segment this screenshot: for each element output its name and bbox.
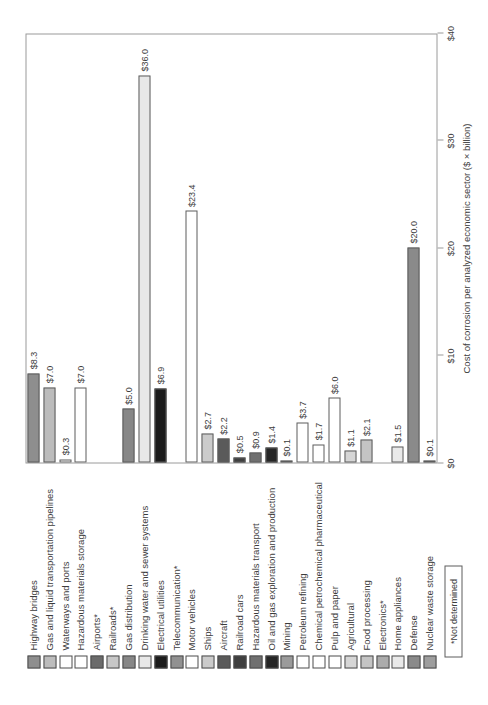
legend-swatch [391, 655, 404, 668]
legend-swatch [423, 655, 436, 668]
legend-label: Pulp and paper [328, 586, 339, 650]
legend-row: Petroleum refining [294, 463, 310, 668]
legend-row: Mining [279, 463, 295, 668]
axis-title: Cost of corrosion per analyzed economic … [460, 33, 471, 463]
axis-tick-mark [437, 140, 443, 141]
legend-label: Electrical utilities [154, 580, 165, 650]
axis-tick-label: $20 [445, 240, 455, 255]
axis-tick-mark [437, 247, 443, 248]
legend-swatch [296, 655, 309, 668]
legend-swatch [90, 655, 103, 668]
legend-row: Hazardous materials storage [73, 463, 89, 668]
legend-label: Railroad cars [233, 594, 244, 650]
legend-swatch [43, 655, 56, 668]
bar-value-label: $6.0 [329, 376, 340, 394]
legend-label: Airports* [91, 614, 102, 650]
bar-value-label: $1.7 [313, 422, 324, 440]
bar [233, 457, 245, 462]
legend-swatch [59, 655, 72, 668]
legend-label: Hazardous materials storage [75, 529, 86, 650]
legend-swatch [74, 655, 87, 668]
legend-label: Mining [281, 622, 292, 650]
legend-swatch [376, 655, 389, 668]
legend-label: Gas and liquid transportation pipelines [43, 488, 54, 650]
bar [296, 422, 308, 462]
axis-tick-label: $30 [445, 133, 455, 148]
legend-label: Nuclear waste storage [424, 555, 435, 650]
legend-label: Defense [408, 615, 419, 650]
legend-row: Airports* [88, 463, 104, 668]
bar-value-label: $1.1 [345, 429, 356, 447]
bar-value-label: $2.2 [218, 417, 229, 435]
legend-swatch [233, 655, 246, 668]
legend-swatch [201, 655, 214, 668]
legend-row: Aircraft [215, 463, 231, 668]
bar-value-label: $6.9 [155, 366, 166, 384]
bar [122, 408, 134, 462]
bar-value-label: $0.9 [250, 431, 261, 449]
legend-row: Agricultural [342, 463, 358, 668]
figure-viewport: Highway bridgesGas and liquid transporta… [0, 0, 488, 705]
bar [312, 444, 324, 462]
legend-row: Pulp and paper [326, 463, 342, 668]
legend-swatch [344, 655, 357, 668]
bar [265, 447, 277, 462]
legend-swatch [27, 655, 40, 668]
bar [59, 459, 71, 462]
legend-swatch [312, 655, 325, 668]
legend-row: Nuclear waste storage [421, 463, 437, 668]
legend-swatch [106, 655, 119, 668]
bar [391, 446, 403, 462]
plot-area: $8.3$7.0$0.3$7.0$5.0$36.0$6.9$23.4$2.7$2… [25, 33, 437, 463]
legend-row: Electronics* [374, 463, 390, 668]
bar [154, 388, 166, 462]
legend-row: Ships [199, 463, 215, 668]
legend-label: Highway bridges [27, 580, 38, 650]
legend-label: Telecommunication* [170, 565, 181, 650]
legend-swatch [185, 655, 198, 668]
bar [344, 450, 356, 462]
legend-swatch [328, 655, 341, 668]
legend-row: Hazardous materials transport [247, 463, 263, 668]
bar-value-label: $1.5 [392, 424, 403, 442]
legend-row: Telecommunication* [168, 463, 184, 668]
bar-value-label: $0.5 [234, 435, 245, 453]
axis-tick-mark [437, 462, 443, 463]
legend-label: Petroleum refining [297, 573, 308, 650]
legend-row: Gas distribution [120, 463, 136, 668]
legend-swatch [138, 655, 151, 668]
bar-value-label: $20.0 [408, 220, 419, 243]
bar [407, 247, 419, 462]
axis-tick-label: $10 [445, 348, 455, 363]
legend-row: Home appliances [389, 463, 405, 668]
legend-swatch [217, 655, 230, 668]
legend-swatch [122, 655, 135, 668]
legend-row: Railroad cars [231, 463, 247, 668]
not-determined-note: *Not determined [444, 565, 462, 657]
bar-value-label: $8.3 [28, 351, 39, 369]
legend-label: Electronics* [376, 600, 387, 650]
bar-value-label: $0.1 [281, 438, 292, 456]
bar-value-label: $0.1 [424, 438, 435, 456]
legend-label: Home appliances [392, 577, 403, 650]
bar-value-label: $7.0 [44, 365, 55, 383]
legend-label: Hazardous materials transport [249, 523, 260, 650]
bar [280, 460, 292, 462]
legend-row: Highway bridges [25, 463, 41, 668]
bar [138, 75, 150, 462]
legend-swatch [249, 655, 262, 668]
legend-label: Agricultural [344, 602, 355, 650]
bar-value-label: $3.7 [297, 401, 308, 419]
bar [328, 398, 340, 463]
legend-label: Gas distribution [122, 584, 133, 650]
bar [185, 210, 197, 462]
legend-label: Drinking water and sewer systems [138, 505, 149, 650]
legend-swatch [280, 655, 293, 668]
legend-label: Waterways and ports [59, 561, 70, 650]
bar-value-label: $1.4 [266, 425, 277, 443]
legend-label: Aircraft [218, 620, 229, 650]
legend-row: Defense [405, 463, 421, 668]
bar-value-label: $0.3 [60, 437, 71, 455]
legend-row: Motor vehicles [183, 463, 199, 668]
bar-value-label: $23.4 [186, 184, 197, 207]
